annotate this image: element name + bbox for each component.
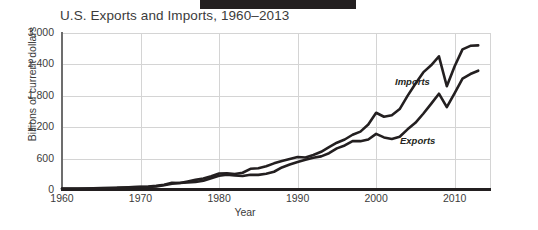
chart-figure: U.S. Exports and Imports, 1960–2013 Bill…	[0, 0, 538, 230]
series-label-imports: Imports	[395, 76, 430, 87]
x-axis-label: Year	[0, 206, 538, 218]
x-axis-label-text: Year	[234, 206, 255, 218]
series-line-exports	[62, 71, 478, 189]
data-lines	[0, 0, 538, 230]
series-line-imports	[62, 45, 478, 188]
series-label-exports: Exports	[400, 135, 435, 146]
